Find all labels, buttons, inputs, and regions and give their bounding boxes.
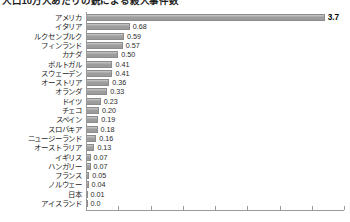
bar xyxy=(86,98,101,105)
bar xyxy=(86,70,112,77)
x-axis-tick xyxy=(215,206,216,210)
x-axis-tick xyxy=(86,206,87,210)
y-axis-line xyxy=(86,12,87,210)
x-axis-tick xyxy=(118,206,119,210)
plot-area: アメリカ3.7イタリア0.68ルクセンブルク0.59フィンランド0.57カナダ0… xyxy=(0,12,350,210)
bar xyxy=(86,33,124,40)
chart-title: 人口10万人あたりの銃による殺人事件数 xyxy=(2,0,179,6)
x-axis-tick xyxy=(247,206,248,210)
bar xyxy=(86,107,99,114)
bar xyxy=(86,14,325,21)
bar xyxy=(86,144,94,151)
x-axis-line xyxy=(86,210,344,211)
bar xyxy=(86,88,107,95)
bar-chart: 人口10万人あたりの銃による殺人事件数 アメリカ3.7イタリア0.68ルクセンブ… xyxy=(0,0,350,222)
value-label: 0.0 xyxy=(91,198,101,209)
bar xyxy=(86,79,109,86)
bar-row: アイスランド0.0 xyxy=(0,198,350,209)
x-axis-tick xyxy=(312,206,313,210)
bar xyxy=(86,126,98,133)
bar xyxy=(86,116,98,123)
bar xyxy=(86,23,130,30)
x-axis-tick xyxy=(151,206,152,210)
category-label: アイスランド xyxy=(0,198,82,209)
x-axis-tick xyxy=(344,206,345,210)
x-axis-tick xyxy=(183,206,184,210)
bar xyxy=(86,61,112,68)
bar xyxy=(86,42,123,49)
bar xyxy=(86,51,118,58)
x-axis-tick xyxy=(280,206,281,210)
bar xyxy=(86,135,96,142)
